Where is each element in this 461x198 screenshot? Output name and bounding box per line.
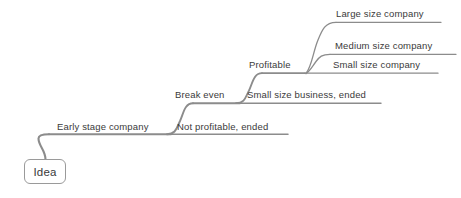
connector-root-to-early-stage	[39, 134, 50, 159]
branch-label-not-profitable-ended[interactable]: Not profitable, ended	[177, 121, 268, 132]
branch-label-small-size-business-ended[interactable]: Small size business, ended	[247, 89, 366, 100]
connector-profitable-to-medium-size-company	[306, 54, 330, 73]
connector-profitable-to-large-size-company	[306, 22, 336, 73]
branch-label-profitable[interactable]: Profitable	[249, 59, 291, 70]
branch-label-medium-size-company[interactable]: Medium size company	[335, 40, 432, 51]
branch-label-small-size-company[interactable]: Small size company	[333, 59, 420, 70]
branch-lines-group	[0, 0, 461, 198]
branch-label-break-even[interactable]: Break even	[175, 89, 225, 100]
root-node-idea[interactable]: Idea	[24, 159, 66, 184]
mind-map-diagram: Idea Early stage company Not profitable,…	[0, 0, 461, 198]
branch-label-large-size-company[interactable]: Large size company	[336, 8, 424, 19]
branch-label-early-stage-company[interactable]: Early stage company	[57, 121, 149, 132]
